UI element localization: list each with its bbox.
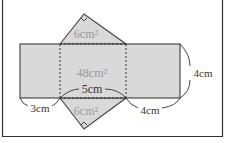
left-leg-label: 3cm [31,102,50,114]
prism-net-diagram: 6cm² 48cm² 6cm² 5cm 3cm 4cm 4cm [0,0,226,143]
top-triangle-area-label: 6cm² [74,27,99,41]
hypotenuse-label: 5cm [82,82,103,96]
height-arc [180,44,190,98]
right-leg-label: 4cm [141,104,160,116]
height-label: 4cm [194,67,213,79]
diagram-canvas: 6cm² 48cm² 6cm² 5cm 3cm 4cm 4cm [0,0,226,143]
bottom-triangle-area-label: 6cm² [74,104,99,118]
rectangle-area-label: 48cm² [77,66,108,80]
